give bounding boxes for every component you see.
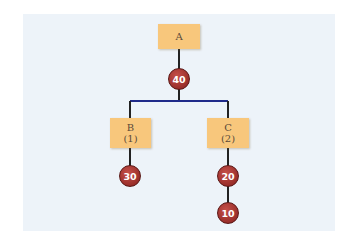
- box-b-label: B: [127, 122, 134, 133]
- node-10-value: 10: [221, 208, 234, 219]
- node-30: 30: [119, 165, 141, 187]
- node-30-value: 30: [123, 171, 136, 182]
- box-a: A: [158, 24, 200, 49]
- node-20-value: 20: [221, 171, 234, 182]
- box-b-sub: (1): [123, 133, 137, 144]
- node-40: 40: [168, 68, 190, 90]
- node-20: 20: [217, 165, 239, 187]
- box-c-sub: (2): [221, 133, 235, 144]
- box-c: C (2): [207, 118, 249, 148]
- node-40-value: 40: [172, 74, 185, 85]
- box-a-label: A: [175, 31, 182, 42]
- box-b: B (1): [110, 118, 151, 148]
- node-10: 10: [217, 202, 239, 224]
- box-c-label: C: [224, 122, 232, 133]
